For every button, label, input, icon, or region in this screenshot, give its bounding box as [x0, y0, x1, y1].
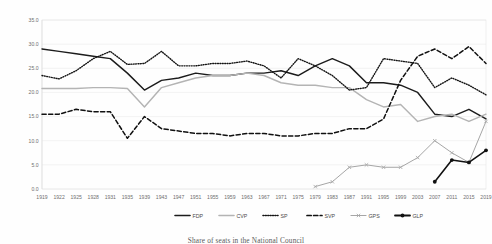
- plot-area-border: [42, 20, 486, 189]
- x-tick-label: 1979: [310, 194, 321, 200]
- y-tick-label: 0.0: [31, 186, 38, 192]
- y-axis-labels: 0.05.010.015.020.025.030.035.0: [29, 17, 39, 192]
- x-tick-label: 1991: [361, 194, 372, 200]
- series-line-glp: [435, 150, 486, 181]
- legend-label-sp: SP: [281, 213, 289, 219]
- legend-label-fdp: FDP: [193, 213, 204, 219]
- y-tick-label: 5.0: [31, 162, 38, 168]
- x-tick-label: 2007: [429, 194, 440, 200]
- x-tick-label: 1922: [53, 194, 64, 200]
- x-tick-label: 2003: [412, 194, 423, 200]
- x-tick-label: 1959: [224, 194, 235, 200]
- series-line-cvp: [42, 73, 486, 121]
- x-tick-label: 1983: [327, 194, 338, 200]
- data-point-glp: [433, 180, 437, 184]
- chart-caption: Share of seats in the National Council: [0, 236, 492, 244]
- legend-marker-glp: [401, 214, 405, 218]
- data-point-glp: [450, 158, 454, 162]
- x-tick-label: 2015: [463, 194, 474, 200]
- y-tick-label: 15.0: [29, 113, 39, 119]
- x-tick-label: 1995: [378, 194, 389, 200]
- x-tick-label: 1967: [258, 194, 269, 200]
- data-point-glp: [484, 148, 488, 152]
- y-tick-label: 35.0: [29, 17, 39, 23]
- x-tick-label: 1931: [105, 194, 116, 200]
- x-tick-label: 1943: [156, 194, 167, 200]
- legend-label-glp: GLP: [413, 213, 424, 219]
- gridlines: [42, 20, 486, 189]
- chart-figure: 0.05.010.015.020.025.030.035.0 191919221…: [0, 0, 492, 244]
- data-point-gps: [416, 156, 419, 159]
- line-chart: 0.05.010.015.020.025.030.035.0 191919221…: [0, 0, 492, 244]
- y-tick-label: 10.0: [29, 138, 39, 144]
- x-tick-label: 2019: [480, 194, 491, 200]
- legend-label-gps: GPS: [369, 213, 381, 219]
- x-tick-label: 1939: [139, 194, 150, 200]
- plot-frame: [42, 20, 486, 189]
- x-tick-label: 1999: [395, 194, 406, 200]
- data-point-glp: [467, 161, 471, 165]
- series-line-fdp: [42, 49, 486, 119]
- x-tick-label: 1951: [190, 194, 201, 200]
- x-tick-label: 1925: [70, 194, 81, 200]
- x-tick-label: 1935: [122, 194, 133, 200]
- x-tick-label: 1928: [88, 194, 99, 200]
- legend-label-cvp: CVP: [237, 213, 248, 219]
- x-tick-label: 2011: [446, 194, 457, 200]
- y-tick-label: 25.0: [29, 65, 39, 71]
- data-point-gps: [450, 151, 453, 154]
- x-tick-label: 1963: [241, 194, 252, 200]
- x-tick-label: 1947: [173, 194, 184, 200]
- x-tick-label: 1955: [207, 194, 218, 200]
- x-tick-label: 1975: [292, 194, 303, 200]
- data-series-group: [42, 47, 488, 189]
- chart-legend: FDPCVPSPSVPGPSGLP: [175, 213, 424, 219]
- x-tick-label: 1971: [275, 194, 286, 200]
- y-tick-label: 20.0: [29, 89, 39, 95]
- x-tick-label: 1919: [36, 194, 47, 200]
- legend-label-svp: SVP: [325, 213, 336, 219]
- x-tick-label: 1987: [344, 194, 355, 200]
- x-axis-labels: 1919192219251928193119351939194319471951…: [36, 194, 491, 200]
- y-tick-label: 30.0: [29, 41, 39, 47]
